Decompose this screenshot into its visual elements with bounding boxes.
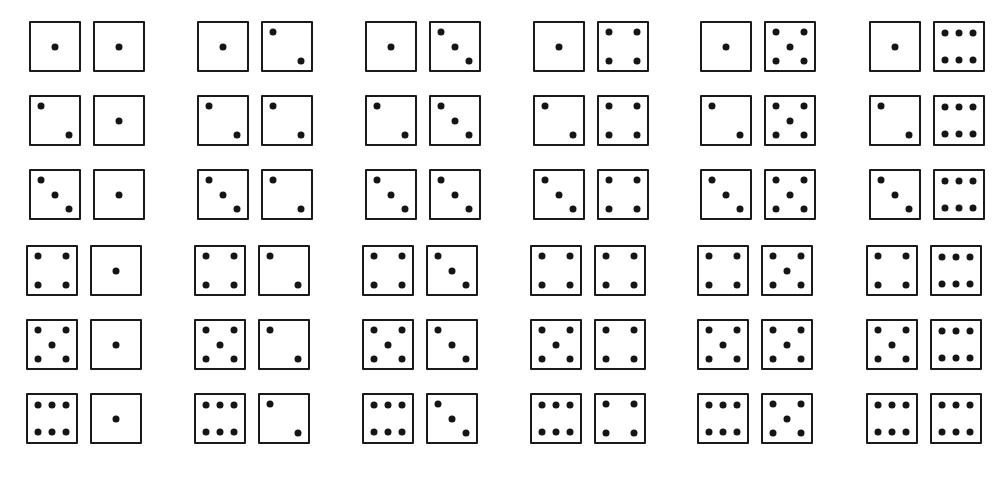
pip-dot [634, 29, 641, 36]
pip-dot [970, 204, 977, 211]
pip-dot [769, 327, 776, 334]
pip-dot [769, 281, 776, 288]
dice-pair-1-6 [869, 21, 989, 73]
die-face-5 [697, 319, 749, 370]
pip-dot [116, 117, 123, 124]
pip-dot [953, 428, 960, 435]
pip-dot [402, 205, 409, 212]
dice-pair-1-4 [533, 21, 653, 73]
pip-dot [941, 104, 948, 111]
pip-dot [231, 355, 238, 362]
pip-dot [373, 103, 380, 110]
pip-dot [734, 253, 741, 260]
die-face-1 [90, 393, 142, 444]
pip-dot [634, 177, 641, 184]
die-face-1 [93, 21, 145, 72]
die-face-2 [29, 95, 81, 146]
die-face-5 [761, 319, 813, 370]
pip-dot [734, 327, 741, 334]
pip-dot [723, 43, 730, 50]
die-face-2 [258, 319, 310, 370]
pip-dot [399, 281, 406, 288]
pip-dot [370, 327, 377, 334]
pip-dot [34, 253, 41, 260]
die-face-3 [29, 169, 81, 220]
pip-dot [66, 205, 73, 212]
dice-pair-2-6 [869, 95, 989, 147]
pip-dot [631, 253, 638, 260]
pip-dot [605, 177, 612, 184]
pip-dot [734, 402, 741, 409]
pip-dot [266, 327, 273, 334]
pip-dot [463, 429, 470, 436]
die-face-3 [426, 245, 478, 296]
pip-dot [434, 401, 441, 408]
pip-dot [798, 327, 805, 334]
pip-dot [970, 56, 977, 63]
pip-dot [970, 130, 977, 137]
pip-dot [938, 280, 945, 287]
pip-dot [953, 280, 960, 287]
pip-dot [631, 327, 638, 334]
die-face-1 [90, 319, 142, 370]
pip-dot [634, 57, 641, 64]
pip-dot [570, 131, 577, 138]
dice-pair-4-5 [697, 245, 817, 297]
die-face-3 [365, 169, 417, 220]
die-face-6 [933, 95, 985, 146]
die-face-6 [866, 393, 918, 444]
pip-dot [941, 204, 948, 211]
pip-dot [269, 29, 276, 36]
pip-dot [953, 354, 960, 361]
die-face-4 [594, 245, 646, 296]
pip-dot [452, 191, 459, 198]
pip-dot [938, 354, 945, 361]
dice-pair-2-5 [700, 95, 820, 147]
pip-dot [953, 254, 960, 261]
dice-pair-6-6 [866, 393, 986, 445]
pip-dot [463, 281, 470, 288]
pip-dot [769, 253, 776, 260]
pip-dot [798, 253, 805, 260]
pip-dot [941, 56, 948, 63]
pip-dot [434, 253, 441, 260]
die-face-2 [261, 169, 313, 220]
dice-pair-1-1 [29, 21, 149, 73]
pip-dot [903, 281, 910, 288]
die-face-1 [93, 169, 145, 220]
die-face-1 [365, 21, 417, 72]
dice-pair-1-2 [197, 21, 317, 73]
die-face-5 [764, 169, 816, 220]
pip-dot [399, 402, 406, 409]
pip-dot [556, 191, 563, 198]
die-face-4 [194, 245, 246, 296]
die-face-4 [866, 245, 918, 296]
die-face-6 [530, 393, 582, 444]
pip-dot [903, 253, 910, 260]
pip-dot [231, 428, 238, 435]
pip-dot [877, 177, 884, 184]
dice-pair-6-4 [530, 393, 650, 445]
die-face-6 [26, 393, 78, 444]
pip-dot [953, 402, 960, 409]
pip-dot [437, 29, 444, 36]
die-face-2 [258, 393, 310, 444]
pip-dot [63, 428, 70, 435]
die-face-6 [697, 393, 749, 444]
pip-dot [49, 341, 56, 348]
pip-dot [449, 415, 456, 422]
pip-dot [903, 327, 910, 334]
pip-dot [202, 355, 209, 362]
pip-dot [553, 402, 560, 409]
pip-dot [202, 428, 209, 435]
pip-dot [463, 355, 470, 362]
pip-dot [941, 30, 948, 37]
die-face-5 [866, 319, 918, 370]
pip-dot [892, 191, 899, 198]
pip-dot [202, 327, 209, 334]
die-face-5 [530, 319, 582, 370]
pip-dot [34, 402, 41, 409]
pip-dot [720, 402, 727, 409]
pip-dot [63, 281, 70, 288]
pip-dot [889, 402, 896, 409]
